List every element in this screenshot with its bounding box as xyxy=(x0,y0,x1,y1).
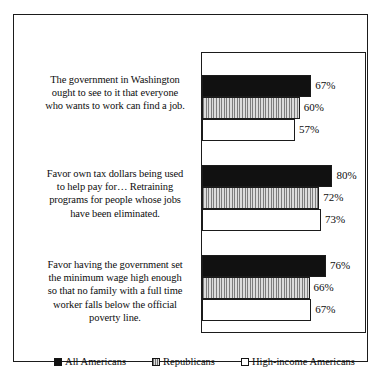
bar-row: 60% xyxy=(202,97,365,119)
hollow-white-square-icon xyxy=(241,358,249,366)
bar-group-0: 67% 60% 57% xyxy=(202,75,365,141)
bar-chart-figure: The government in Washington ought to se… xyxy=(0,0,383,375)
category-label-1-line-2: to help pay for… Retraining xyxy=(30,180,200,193)
striped-gray-square-icon xyxy=(152,358,160,366)
category-label-0-line-3: who wants to work can find a job. xyxy=(30,99,200,112)
category-label-2-line-1: Favor having the government set xyxy=(30,258,200,271)
bar-high-income-americans-0 xyxy=(202,119,295,141)
bar-row: 80% xyxy=(202,165,365,187)
legend-label-high-income-americans: High-income Americans xyxy=(252,355,355,369)
bar-value-republicans-0: 60% xyxy=(300,100,324,115)
category-label-1: Favor own tax dollars being used to help… xyxy=(30,167,200,220)
bar-high-income-americans-2 xyxy=(202,299,311,321)
bar-value-republicans-2: 66% xyxy=(310,280,334,295)
plot-area: 67% 60% 57% 80% 72% xyxy=(201,52,366,333)
bar-row: 66% xyxy=(202,277,365,299)
legend-label-all-americans: All Americans xyxy=(65,355,126,369)
legend-item-republicans: Republicans xyxy=(152,355,215,369)
legend-label-republicans: Republicans xyxy=(163,355,215,369)
chart-legend: All Americans Republicans High-income Am… xyxy=(28,351,381,373)
bar-all-americans-1 xyxy=(202,165,332,187)
bar-republicans-2 xyxy=(202,277,310,299)
category-label-1-line-3: programs for people whose jobs xyxy=(30,193,200,206)
bar-value-all-americans-0: 67% xyxy=(311,78,335,93)
chart-outer-frame: The government in Washington ought to se… xyxy=(13,14,368,362)
bar-high-income-americans-1 xyxy=(202,209,321,231)
bar-row: 76% xyxy=(202,255,365,277)
bar-group-2: 76% 66% 67% xyxy=(202,255,365,321)
category-label-2-line-5: poverty line. xyxy=(30,311,200,324)
bar-republicans-1 xyxy=(202,187,319,209)
legend-item-all-americans: All Americans xyxy=(54,355,126,369)
legend-item-high-income-americans: High-income Americans xyxy=(241,355,355,369)
bar-all-americans-2 xyxy=(202,255,326,277)
bar-republicans-0 xyxy=(202,97,300,119)
category-label-1-line-4: have been eliminated. xyxy=(30,207,200,220)
category-label-2-line-3: so that no family with a full time xyxy=(30,284,200,297)
category-label-2: Favor having the government set the mini… xyxy=(30,258,200,324)
category-label-0: The government in Washington ought to se… xyxy=(30,73,200,113)
bar-row: 57% xyxy=(202,119,365,141)
category-label-2-line-2: the minimum wage high enough xyxy=(30,271,200,284)
bar-group-1: 80% 72% 73% xyxy=(202,165,365,231)
category-label-2-line-4: worker falls below the official xyxy=(30,298,200,311)
bar-value-high-income-americans-2: 67% xyxy=(311,302,335,317)
bar-value-all-americans-1: 80% xyxy=(332,168,356,183)
bar-all-americans-0 xyxy=(202,75,311,97)
bar-value-all-americans-2: 76% xyxy=(326,258,350,273)
solid-black-square-icon xyxy=(54,358,62,366)
bar-value-high-income-americans-0: 57% xyxy=(295,122,319,137)
bar-value-high-income-americans-1: 73% xyxy=(321,212,345,227)
bar-row: 72% xyxy=(202,187,365,209)
bar-row: 67% xyxy=(202,75,365,97)
category-label-1-line-1: Favor own tax dollars being used xyxy=(30,167,200,180)
bar-row: 67% xyxy=(202,299,365,321)
bar-value-republicans-1: 72% xyxy=(319,190,343,205)
category-label-0-line-2: ought to see to it that everyone xyxy=(30,86,200,99)
bar-row: 73% xyxy=(202,209,365,231)
category-label-0-line-1: The government in Washington xyxy=(30,73,200,86)
